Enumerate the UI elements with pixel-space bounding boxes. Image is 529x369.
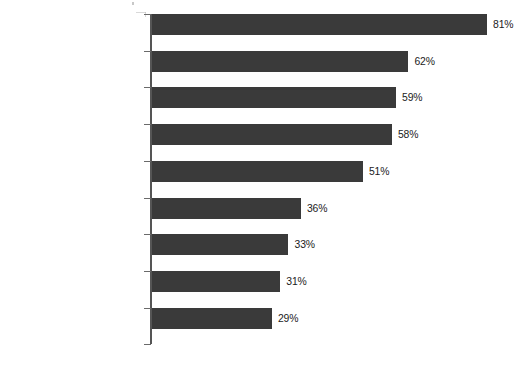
bar-value-label: 58% xyxy=(398,124,419,145)
axis-tick xyxy=(144,14,151,15)
bar-value-label: 81% xyxy=(493,14,514,35)
bar-value-label: 62% xyxy=(414,51,435,72)
bar xyxy=(152,161,363,182)
bar xyxy=(152,124,392,145)
axis-tick xyxy=(144,234,151,235)
bar xyxy=(152,51,408,72)
axis-tick xyxy=(144,161,151,162)
plot-area: Read posts from people known personally8… xyxy=(0,0,529,369)
axis-tick xyxy=(144,51,151,52)
bar-value-label: 31% xyxy=(286,271,307,292)
bar-value-label: 36% xyxy=(307,198,328,219)
bar-value-label: 59% xyxy=(402,87,423,108)
bar xyxy=(152,198,301,219)
bar-value-label: 29% xyxy=(278,308,299,329)
bar-chart: Read posts from people known personally8… xyxy=(0,0,529,369)
axis-tick xyxy=(144,198,151,199)
bar xyxy=(152,271,280,292)
bar xyxy=(152,14,487,35)
axis-tick xyxy=(144,87,151,88)
axis-tick xyxy=(144,271,151,272)
bar xyxy=(152,87,396,108)
axis-tick xyxy=(144,124,151,125)
bar xyxy=(152,234,288,255)
bar-value-label: 51% xyxy=(369,161,390,182)
axis-tick xyxy=(144,344,151,345)
axis-tick xyxy=(144,308,151,309)
bar-value-label: 33% xyxy=(294,234,315,255)
bar xyxy=(152,308,272,329)
